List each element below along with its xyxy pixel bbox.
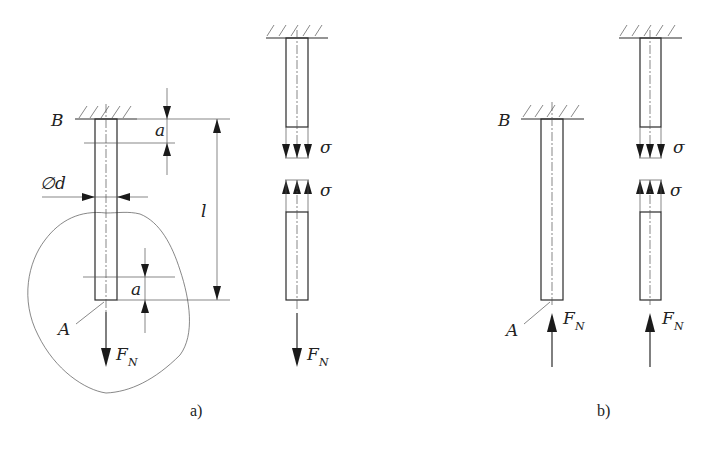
stress-arrows-down-icon xyxy=(282,144,312,158)
rod-stress-diagram: B a ∅d l xyxy=(0,0,704,451)
caption-a: a) xyxy=(190,402,202,420)
stress-label-lower: σ xyxy=(670,180,682,200)
stress-arrows-down-icon xyxy=(636,144,665,158)
force-label: F xyxy=(306,344,320,364)
force-subscript: N xyxy=(318,356,329,369)
upper-rod-segment xyxy=(640,38,661,127)
force-label: F xyxy=(661,308,675,328)
stress-label-lower: σ xyxy=(320,180,332,200)
support-label-b: B xyxy=(50,110,64,130)
point-a-leader xyxy=(524,302,550,324)
point-label-a: A xyxy=(56,319,70,339)
stress-label-upper: σ xyxy=(673,137,685,157)
point-label-a: A xyxy=(504,320,518,340)
fixed-support-hatch-icon xyxy=(521,105,584,119)
support-label-b: B xyxy=(497,110,511,130)
length-label: l xyxy=(201,201,206,221)
point-a-leader xyxy=(76,302,104,324)
force-label: F xyxy=(115,344,129,364)
panel-b-main-view: B A F N xyxy=(497,102,585,367)
force-arrow-down-icon xyxy=(292,313,302,367)
panel-b-section-view: σ σ F N xyxy=(619,25,685,367)
diameter-label: ∅d xyxy=(40,173,66,193)
force-subscript: N xyxy=(673,320,684,333)
force-arrow-up-icon xyxy=(645,313,655,367)
panel-a-section-view: σ σ F N xyxy=(266,25,332,369)
body-outline xyxy=(28,212,190,393)
bottom-offset-label: a xyxy=(131,279,141,299)
force-label: F xyxy=(562,308,576,328)
panel-a-main-view: B a ∅d l xyxy=(28,88,230,393)
force-arrow-up-icon xyxy=(547,313,557,367)
force-subscript: N xyxy=(574,320,585,333)
dimension-length xyxy=(213,119,221,300)
stress-label-upper: σ xyxy=(320,137,332,157)
force-subscript: N xyxy=(127,356,138,369)
lower-rod-segment xyxy=(640,212,661,300)
fixed-support-hatch-icon xyxy=(619,25,682,38)
dimension-bottom-a xyxy=(83,248,230,333)
caption-b: b) xyxy=(597,402,610,420)
force-arrow-down-icon xyxy=(101,312,111,367)
top-offset-label: a xyxy=(155,120,165,140)
